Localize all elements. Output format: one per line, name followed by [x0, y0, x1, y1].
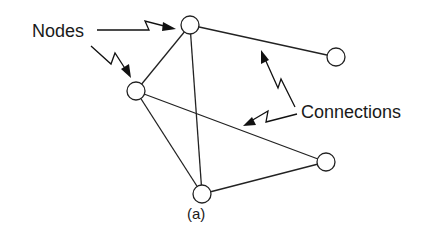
node-n1	[181, 16, 199, 34]
zigzag-arrow-icon	[97, 21, 176, 31]
zigzag-arrow-icon	[91, 46, 131, 78]
node-n3	[327, 48, 345, 66]
connections-label: Connections	[301, 103, 401, 121]
zigzag-arrow-icon	[261, 50, 295, 107]
nodes-label: Nodes	[32, 22, 84, 40]
edge-n1-n5	[190, 25, 202, 194]
zigzag-arrow-icon	[243, 111, 297, 126]
node-n2	[127, 82, 145, 100]
edge-n5-n4	[202, 162, 326, 194]
node-n5	[193, 185, 211, 203]
edge-n2-n5	[136, 91, 202, 194]
network-diagram: Nodes Connections (a)	[0, 0, 439, 243]
edge-n1-n2	[136, 25, 190, 91]
edge-n1-n3	[190, 25, 336, 57]
figure-caption: (a)	[187, 206, 205, 221]
edge-n2-n4	[136, 91, 326, 162]
node-n4	[317, 153, 335, 171]
